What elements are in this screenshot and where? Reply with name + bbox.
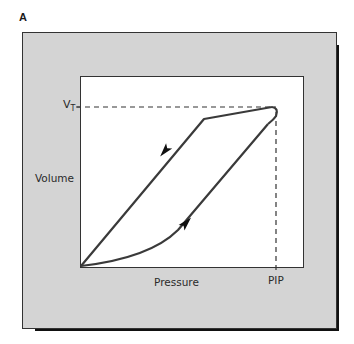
vt-label-main: V (63, 98, 71, 111)
expiratory-limb (81, 107, 272, 266)
x-axis-label: Pressure (154, 276, 199, 288)
vt-label-sub: T (71, 104, 76, 113)
y-axis-label: Volume (35, 172, 74, 184)
vt-label: VT (63, 98, 75, 111)
pip-label: PIP (268, 274, 284, 286)
inspiratory-limb (81, 124, 268, 266)
arrow-down-left-icon (157, 143, 172, 159)
